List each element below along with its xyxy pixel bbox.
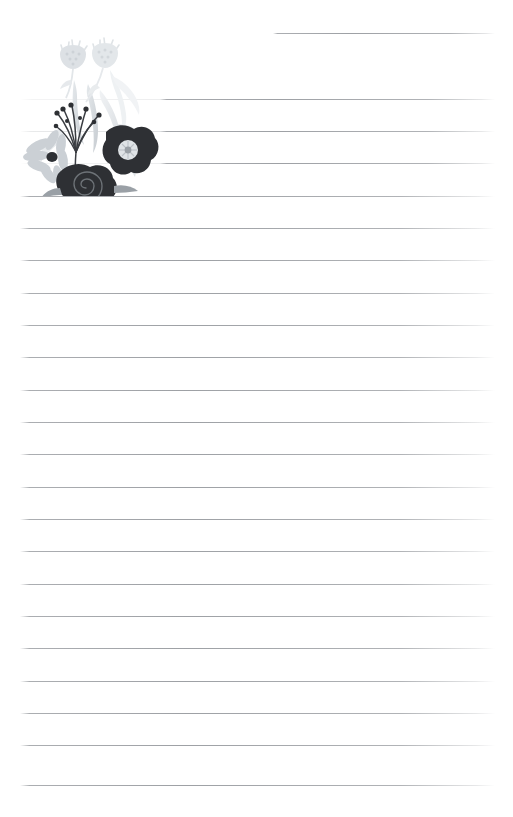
ruled-line: [20, 745, 495, 746]
ruled-line: [20, 357, 495, 358]
ruled-line: [20, 616, 495, 617]
ruled-line: [20, 422, 495, 423]
ruled-line: [20, 551, 495, 552]
stationery-page: [0, 0, 513, 817]
ruled-line: [20, 785, 495, 786]
ruled-line: [20, 454, 495, 455]
ruled-line: [20, 260, 495, 261]
ruled-line-faint: [20, 99, 330, 100]
ruled-line: [20, 584, 495, 585]
ruled-line: [20, 648, 495, 649]
ruled-line-faint: [20, 163, 330, 164]
ruled-line: [20, 325, 495, 326]
ruled-line: [20, 390, 495, 391]
ruled-line: [20, 487, 495, 488]
ruled-line: [20, 196, 495, 197]
ruled-line: [20, 228, 495, 229]
ruled-line: [20, 681, 495, 682]
ruled-line: [20, 713, 495, 714]
ruled-line: [20, 519, 495, 520]
ruled-line: [273, 33, 495, 34]
ruled-line-faint: [20, 131, 330, 132]
ruled-line: [20, 293, 495, 294]
ruled-lines-layer: [0, 0, 513, 817]
